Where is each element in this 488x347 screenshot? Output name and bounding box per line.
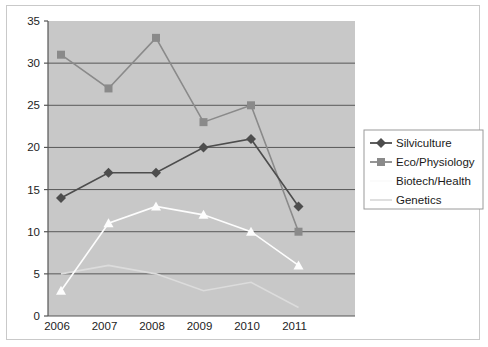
data-point-marker xyxy=(57,51,65,59)
x-axis-tick-label: 2006 xyxy=(44,320,70,332)
chart-legend: SilvicultureEco/PhysiologyBiotech/Health… xyxy=(364,130,483,209)
y-axis-tick-label: 10 xyxy=(27,226,40,238)
y-axis-tick-label: 5 xyxy=(34,268,40,280)
y-axis-tick-label: 0 xyxy=(34,310,40,322)
data-point-marker xyxy=(200,118,208,126)
plot-background xyxy=(48,21,355,316)
x-axis-tick-label: 2007 xyxy=(92,320,118,332)
x-axis-tick-label: 2008 xyxy=(139,320,165,332)
y-axis-tick-label: 25 xyxy=(27,99,40,111)
y-axis-tick-label: 35 xyxy=(27,15,40,27)
x-axis-tick-label: 2010 xyxy=(234,320,260,332)
data-point-marker xyxy=(105,84,113,92)
data-point-marker xyxy=(152,34,160,42)
legend-item-label: Biotech/Health xyxy=(396,175,471,187)
y-axis-tick-label: 20 xyxy=(27,141,40,153)
x-axis-tick-label: 2011 xyxy=(282,320,307,332)
legend-item-label: Genetics xyxy=(396,194,442,206)
line-chart: 05101520253035200620072008200920102011Si… xyxy=(0,0,488,347)
legend-item-label: Eco/Physiology xyxy=(396,156,475,168)
data-point-marker xyxy=(247,101,255,109)
legend-item-label: Silviculture xyxy=(396,137,452,149)
data-point-marker xyxy=(295,228,303,236)
y-axis-tick-label: 30 xyxy=(27,57,40,69)
y-axis-tick-label: 15 xyxy=(27,184,40,196)
x-axis-tick-label: 2009 xyxy=(187,320,213,332)
chart-container: 05101520253035200620072008200920102011Si… xyxy=(0,0,488,347)
legend-marker xyxy=(377,158,385,166)
